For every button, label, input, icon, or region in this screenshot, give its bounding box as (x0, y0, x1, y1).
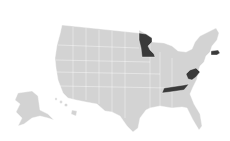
alaska (15, 91, 54, 126)
state-massachusetts[interactable] (211, 50, 220, 55)
contiguous-us (55, 25, 219, 132)
us-map (0, 0, 230, 141)
hawaii (55, 98, 77, 116)
